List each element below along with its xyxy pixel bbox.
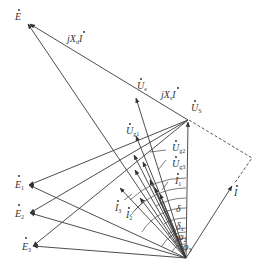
svg-text:Ug1: Ug1 bbox=[126, 125, 139, 137]
svg-text:E2: E2 bbox=[14, 208, 24, 220]
label-I: I bbox=[233, 185, 238, 198]
label-E: E bbox=[14, 9, 21, 22]
svg-text:E1: E1 bbox=[14, 179, 24, 191]
label-E2: E2 bbox=[14, 204, 24, 220]
svg-text:jXdI: jXdI bbox=[65, 33, 83, 45]
label-Us: US bbox=[191, 100, 202, 114]
label-I1: I1 bbox=[174, 173, 181, 187]
phasor-E2 bbox=[30, 213, 186, 258]
svg-text:Ug3: Ug3 bbox=[172, 158, 185, 170]
label-E3: E3 bbox=[21, 237, 31, 253]
phasor-E1 bbox=[29, 185, 186, 258]
svg-text:jXsI: jXsI bbox=[159, 89, 176, 101]
label-jXdI: jXdI bbox=[65, 31, 85, 45]
phasor-lines bbox=[28, 24, 252, 258]
svg-text:I: I bbox=[233, 187, 238, 198]
label-phi3: φ3 bbox=[183, 241, 192, 253]
svg-text:Ue: Ue bbox=[137, 80, 147, 92]
label-I2: I2 bbox=[125, 207, 132, 221]
svg-text:E: E bbox=[14, 11, 21, 22]
svg-text:δ: δ bbox=[176, 203, 181, 214]
dashed-projection bbox=[189, 120, 252, 184]
label-I3: I3 bbox=[114, 200, 121, 214]
label-jXsI: jXsI bbox=[159, 87, 179, 101]
labels: E jXdI Ue jXsI US Ug1 Ug2 Ug3 bbox=[14, 9, 238, 253]
line-Us-E2 bbox=[30, 120, 188, 213]
label-Ug1: Ug1 bbox=[126, 123, 139, 137]
phasor-I bbox=[186, 186, 232, 258]
svg-text:Ug2: Ug2 bbox=[172, 142, 185, 154]
label-Ug2: Ug2 bbox=[172, 140, 185, 154]
svg-text:E3: E3 bbox=[21, 241, 31, 253]
svg-text:φ3: φ3 bbox=[183, 241, 192, 253]
svg-text:I1: I1 bbox=[174, 175, 181, 187]
line-Us-E1 bbox=[29, 120, 188, 185]
svg-text:US: US bbox=[191, 102, 202, 114]
label-Ug3: Ug3 bbox=[172, 156, 185, 170]
svg-text:I2: I2 bbox=[125, 209, 132, 221]
label-E1: E1 bbox=[14, 175, 24, 191]
phasor-diagram: E jXdI Ue jXsI US Ug1 Ug2 Ug3 bbox=[0, 0, 263, 274]
label-delta: δ bbox=[176, 203, 181, 214]
phasor-jXsI bbox=[30, 24, 188, 120]
svg-text:I3: I3 bbox=[114, 202, 121, 214]
label-Ue: Ue bbox=[137, 78, 147, 92]
